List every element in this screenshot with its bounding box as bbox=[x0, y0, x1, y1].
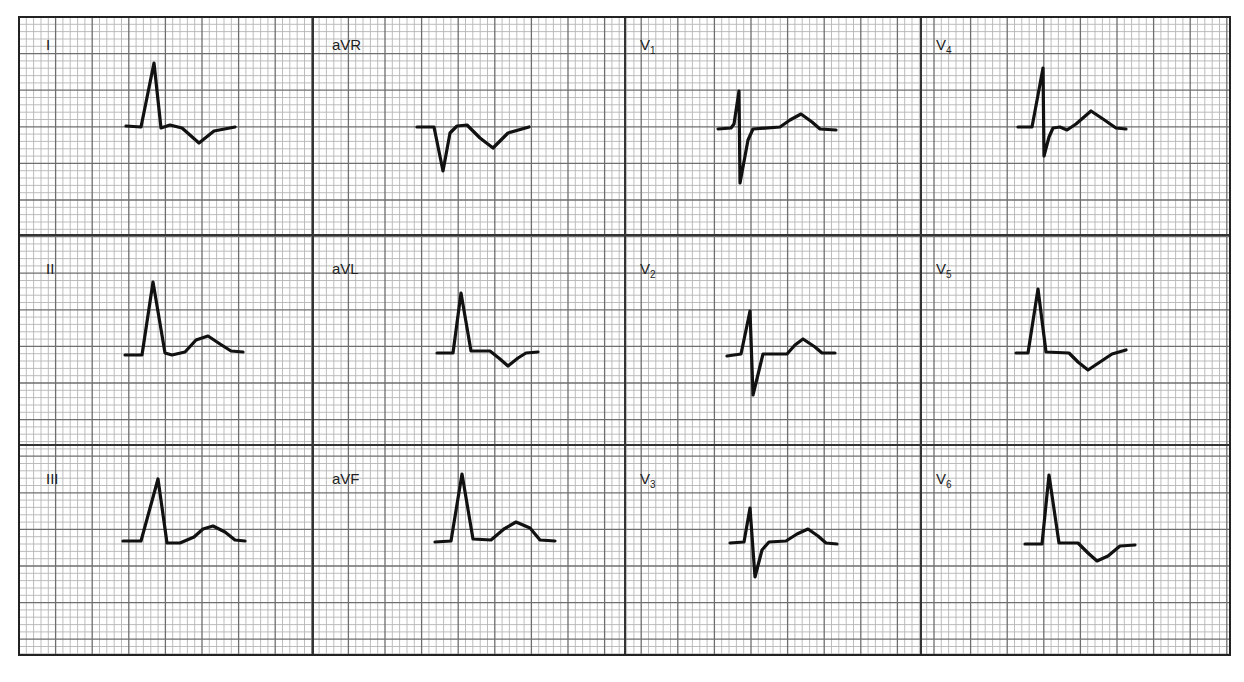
lead-trace-i bbox=[126, 63, 235, 143]
lead-trace-v3 bbox=[730, 508, 837, 577]
lead-label-i: I bbox=[46, 36, 50, 53]
panel-dividers bbox=[19, 17, 1230, 655]
lead-trace-ii bbox=[125, 282, 243, 355]
lead-label-v2: V2 bbox=[640, 260, 656, 280]
lead-label-v5: V5 bbox=[936, 260, 952, 280]
lead-label-ii: II bbox=[46, 260, 54, 277]
lead-label-iii: III bbox=[46, 470, 59, 487]
lead-label-avl: aVL bbox=[332, 260, 359, 277]
lead-label-v6: V6 bbox=[936, 470, 952, 490]
lead-label-avr: aVR bbox=[332, 36, 361, 53]
lead-labels: IaVRV1V4IIaVLV2V5IIIaVFV3V6 bbox=[46, 36, 952, 490]
lead-trace-iii bbox=[123, 479, 245, 543]
lead-label-v3: V3 bbox=[640, 470, 656, 490]
ecg-strip: IaVRV1V4IIaVLV2V5IIIaVFV3V6 bbox=[0, 0, 1244, 682]
lead-label-avf: aVF bbox=[332, 470, 360, 487]
